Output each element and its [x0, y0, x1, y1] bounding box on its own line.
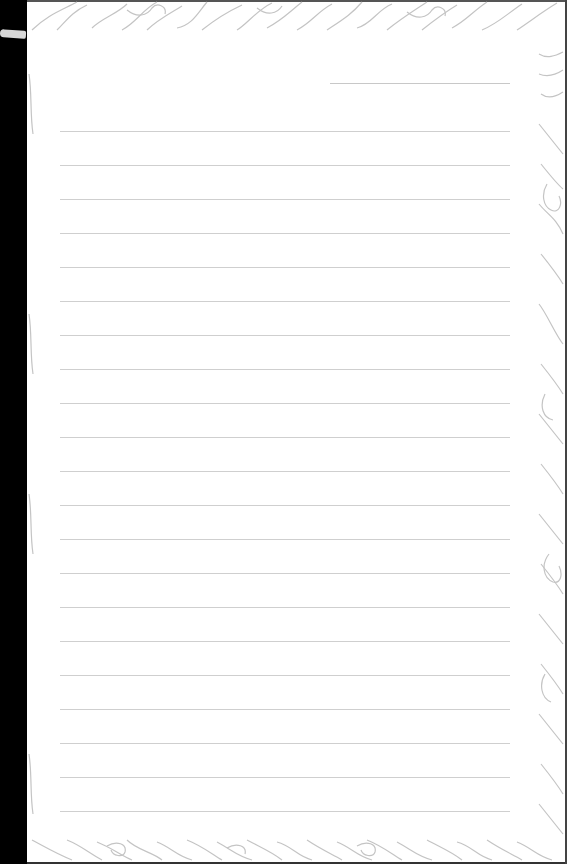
ruled-line — [60, 165, 510, 166]
ruled-line — [60, 471, 510, 472]
floral-border-left-icon — [27, 34, 35, 836]
floral-border-bottom-icon — [27, 836, 567, 862]
ruled-line — [60, 573, 510, 574]
floral-border-right-icon — [537, 34, 565, 836]
ruled-line — [60, 369, 510, 370]
date-line — [330, 83, 510, 84]
ruled-line — [60, 335, 510, 336]
floral-border-top-icon — [27, 0, 567, 34]
ruled-line — [60, 811, 510, 812]
ruled-line — [60, 437, 510, 438]
page-tab — [0, 29, 26, 39]
ruled-line — [60, 641, 510, 642]
ruled-line — [60, 403, 510, 404]
ruled-line — [60, 539, 510, 540]
ruled-line — [60, 743, 510, 744]
binding-edge — [0, 0, 27, 864]
ruled-line — [60, 131, 510, 132]
ruled-line — [60, 675, 510, 676]
ruled-line — [60, 777, 510, 778]
ruled-line — [60, 607, 510, 608]
ruled-line — [60, 505, 510, 506]
ruled-line — [60, 233, 510, 234]
ruled-line — [60, 301, 510, 302]
ruled-line — [60, 709, 510, 710]
ruled-line — [60, 199, 510, 200]
top-edge — [27, 0, 567, 2]
ruled-line — [60, 267, 510, 268]
